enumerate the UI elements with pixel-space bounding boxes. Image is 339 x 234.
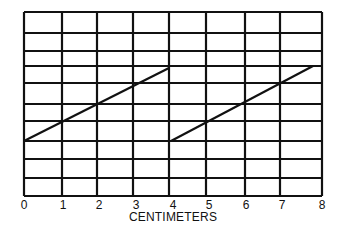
- x-tick-1: 1: [60, 198, 67, 212]
- x-tick-7: 7: [279, 198, 286, 212]
- x-tick-8: 8: [319, 198, 326, 212]
- x-tick-6: 6: [243, 198, 250, 212]
- x-tick-2: 2: [96, 198, 103, 212]
- x-axis-label: CENTIMETERS: [129, 210, 217, 224]
- x-tick-0: 0: [21, 198, 28, 212]
- grid-lines: [24, 12, 322, 196]
